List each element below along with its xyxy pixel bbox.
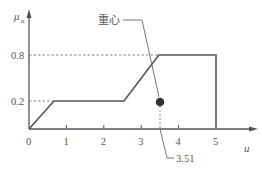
membership-chart: μ u u 0.8 0.2 0 1 2 3 4 5 重心 3.51	[0, 0, 262, 172]
x-tick-label-4: 4	[176, 136, 182, 147]
x-tick-label-5: 5	[213, 136, 218, 147]
x-tick-label-2: 2	[101, 136, 106, 147]
centroid-value-label: 3.51	[176, 153, 194, 164]
value-leader-line	[160, 129, 174, 158]
y-axis-label-sub: u	[21, 17, 25, 25]
x-tick-label-0: 0	[26, 136, 31, 147]
x-axis-label: u	[244, 142, 250, 154]
y-axis-arrow-icon	[27, 9, 32, 18]
y-tick-label-0.2: 0.2	[11, 96, 24, 107]
centroid-dot	[156, 98, 165, 107]
membership-curve	[29, 55, 216, 129]
centroid-label: 重心	[98, 13, 120, 26]
y-axis-label: μ	[13, 10, 20, 22]
x-tick-label-1: 1	[63, 136, 68, 147]
y-tick-label-0.8: 0.8	[11, 50, 24, 61]
x-axis-arrow-icon	[249, 127, 258, 132]
x-tick-label-3: 3	[138, 136, 143, 147]
centroid-leader-line	[123, 20, 159, 97]
